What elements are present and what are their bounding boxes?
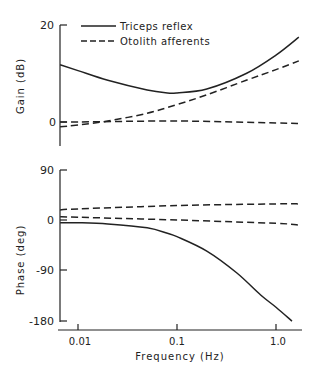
x-axis-label: Frequency (Hz)	[135, 351, 224, 362]
gain-panel: 20 0 Gain (dB) Triceps reflex Otolith af…	[15, 19, 299, 146]
phase-axis-label: Phase (deg)	[15, 225, 26, 296]
legend-otolith: Otolith afferents	[120, 36, 210, 47]
legend: Triceps reflex Otolith afferents	[81, 21, 210, 47]
phase-otolith-curve-1	[60, 204, 299, 210]
phase-tick-90: 90	[40, 164, 54, 177]
gain-tick-0: 0	[49, 116, 56, 129]
x-tick-0.01: 0.01	[69, 336, 91, 347]
phase-panel: 90 0 -90 -180 Phase (deg)	[15, 164, 299, 328]
gain-axis-label: Gain (dB)	[15, 58, 26, 114]
gain-tick-20: 20	[40, 19, 54, 32]
phase-triceps-curve-0	[60, 223, 292, 321]
x-tick-0.1: 0.1	[169, 336, 185, 347]
phase-tick-minus180: -180	[29, 315, 54, 328]
bode-plot: 20 0 Gain (dB) Triceps reflex Otolith af…	[0, 0, 326, 379]
phase-tick-minus90: -90	[36, 264, 54, 277]
gain-otolith-curve-1	[60, 61, 299, 127]
x-axis: 0.01 0.1 1.0 Frequency (Hz)	[58, 324, 302, 362]
x-tick-1.0: 1.0	[270, 336, 286, 347]
legend-triceps: Triceps reflex	[119, 21, 193, 32]
phase-tick-0: 0	[47, 214, 54, 227]
